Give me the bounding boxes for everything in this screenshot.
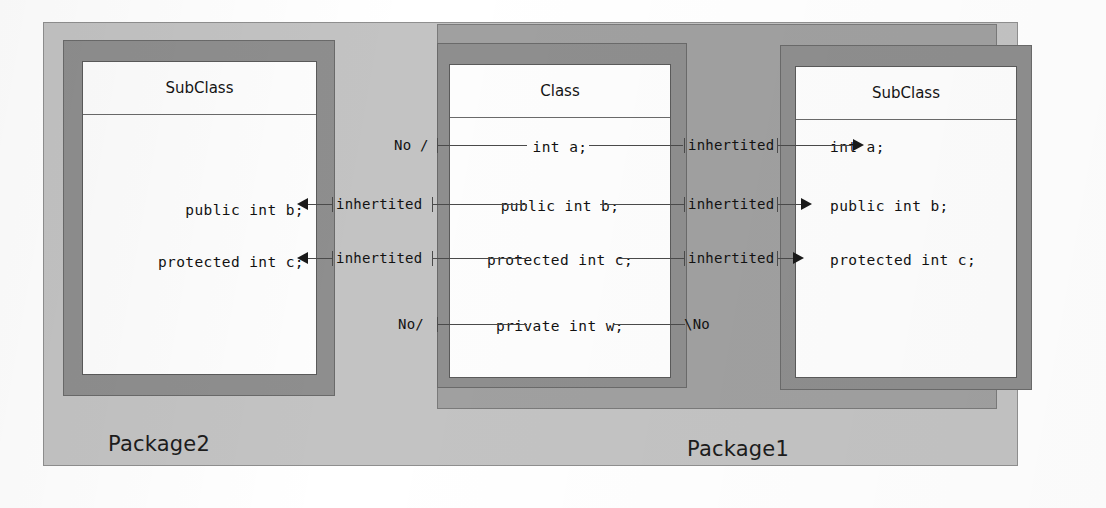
right-subclass-member-c: protected int c; — [830, 252, 976, 268]
connector-line-b-mid-right — [600, 204, 684, 205]
left-subclass-member-c: protected int c; — [158, 254, 304, 270]
arrowhead-left-b — [297, 198, 308, 210]
center-class-member-a: int a; — [450, 139, 670, 155]
arrowhead-right-c — [793, 252, 804, 264]
arrowhead-left-c — [297, 252, 308, 264]
right-subclass-box: SubClass int a; public int b; protected … — [795, 66, 1017, 378]
connector-line-b-right — [777, 204, 803, 205]
connector-label-inherited-b-right: inhertited — [688, 196, 774, 212]
connector-label-no-w-right: \No — [684, 316, 710, 332]
center-class-box: Class int a; public int b; protected int… — [449, 64, 671, 378]
connector-line-b-leftbox — [308, 204, 333, 205]
connector-tick-b-leftbox — [332, 197, 333, 212]
left-subclass-member-b: public int b; — [185, 202, 304, 218]
connector-label-inherited-a: inhertited — [688, 137, 774, 153]
connector-label-inherited-c-left: inhertited — [336, 250, 422, 266]
diagram-canvas: SubClass public int b; protected int c; … — [0, 0, 1106, 508]
connector-line-b-left — [432, 204, 527, 205]
center-class-title: Class — [450, 65, 670, 118]
connector-tick-b-mid-right — [684, 197, 685, 212]
package2-label: Package2 — [108, 432, 210, 456]
right-subclass-title: SubClass — [796, 67, 1016, 120]
connector-tick-c-mid-right — [684, 251, 685, 266]
center-class-member-b: public int b; — [450, 198, 670, 214]
connector-line-w-left — [437, 324, 527, 325]
connector-tick-c-leftbox — [332, 251, 333, 266]
arrowhead-right-a — [853, 139, 864, 151]
connector-line-c-mid-right — [618, 258, 684, 259]
connector-label-inherited-b-left: inhertited — [336, 196, 422, 212]
center-class-member-c: protected int c; — [450, 252, 670, 268]
left-subclass-title: SubClass — [83, 62, 316, 115]
connector-label-inherited-c-right: inhertited — [688, 250, 774, 266]
center-class-member-w: private int w; — [450, 318, 670, 334]
left-subclass-box: SubClass public int b; protected int c; — [82, 61, 317, 375]
connector-line-a-left — [437, 145, 527, 146]
connector-line-w-right — [613, 324, 685, 325]
connector-label-no-a-left: No / — [394, 137, 429, 153]
connector-line-c-leftbox — [308, 258, 333, 259]
connector-line-a-mid-right — [589, 145, 683, 146]
arrowhead-right-b — [801, 198, 812, 210]
connector-line-c-left — [432, 258, 527, 259]
right-subclass-member-b: public int b; — [830, 198, 949, 214]
connector-line-a-right — [777, 145, 855, 146]
package1-label: Package1 — [687, 437, 789, 461]
connector-tick-a-mid-right — [684, 138, 685, 153]
connector-label-no-w-left: No/ — [398, 316, 424, 332]
